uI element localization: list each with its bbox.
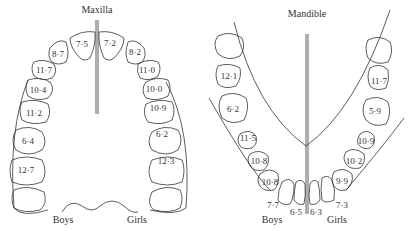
maxilla-boys-value: 12·7	[18, 165, 35, 175]
mandible-boys-value: 6·2	[227, 104, 239, 114]
mandible-girls-value: 7·3	[336, 200, 348, 210]
maxilla-title: Maxilla	[81, 4, 112, 15]
mandible-girls-value: 6·3	[310, 207, 322, 217]
maxilla-palate-outline-left	[13, 80, 48, 214]
mandible-tooth-boys-molar-3	[215, 33, 244, 58]
maxilla-boys-value: 11·2	[26, 108, 42, 118]
maxilla-boys-value: 8·7	[52, 49, 64, 59]
mandible-tooth-girls-molar-3	[366, 37, 392, 63]
maxilla-girls-value: 12·3	[158, 156, 175, 166]
mandible-boys-value: 7·7	[267, 200, 279, 210]
maxilla-girls-value: 8·2	[129, 47, 141, 57]
maxilla-tooth-boys-molar-3	[12, 187, 45, 211]
maxilla-boys-label: Boys	[53, 214, 74, 225]
mandible-boys-value: 6·5	[290, 207, 302, 217]
maxilla-boys-value: 6·4	[22, 136, 34, 146]
mandible-boys-value: 11·5	[240, 133, 256, 143]
mandible-lingual-arch	[234, 10, 390, 146]
maxilla-girls-label: Girls	[127, 214, 147, 225]
mandible-boys-value: 10·8	[262, 177, 279, 187]
mandible-girls-value: 9·9	[336, 176, 348, 186]
mandible-girls-value: 5·9	[369, 106, 381, 116]
maxilla-girls-value: 11·0	[139, 65, 155, 75]
mandible-outer-right	[346, 118, 404, 190]
maxilla-palate-wave	[62, 201, 138, 212]
maxilla-girls-value: 7·2	[104, 38, 116, 48]
maxilla-girls-value: 6·2	[156, 129, 168, 139]
mandible-boys-value: 12·1	[221, 71, 238, 81]
maxilla-boys-value: 7·5	[76, 39, 88, 49]
mandible-girls-value: 10·2	[346, 156, 363, 166]
mandible-girls-value: 10·9	[358, 136, 375, 146]
mandible-tooth-boys-central-incisor	[294, 180, 305, 204]
mandible-tooth-boys-lateral-incisor	[278, 179, 294, 204]
mandible-tooth-girls-lateral-incisor	[321, 176, 335, 202]
mandible-boys-value: 10·8	[251, 156, 268, 166]
maxilla-girls-value: 10·9	[150, 103, 167, 113]
mandible-girls-label: Girls	[327, 214, 347, 225]
maxilla-tooth-girls-molar-3	[149, 187, 182, 211]
maxilla-boys-value: 11·7	[36, 65, 52, 75]
mandible-boys-label: Boys	[262, 214, 283, 225]
mandible-girls-value: 11·7	[371, 76, 387, 86]
maxilla-boys-value: 10·4	[30, 85, 47, 95]
mandible-tooth-girls-central-incisor	[309, 180, 320, 204]
dental-arch-diagram	[0, 0, 414, 231]
mandible-title: Mandible	[288, 8, 326, 19]
maxilla-girls-value: 10·0	[146, 84, 163, 94]
